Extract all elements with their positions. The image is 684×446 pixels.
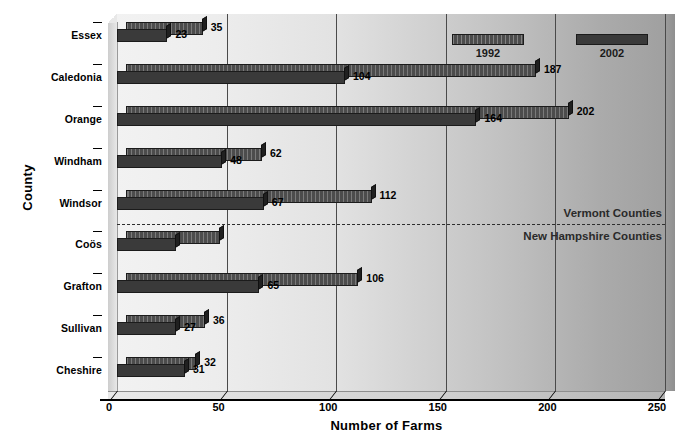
y-axis-tick [93, 315, 102, 316]
bar-value-cheshire-1992: 32 [204, 356, 216, 368]
bar-body [117, 238, 176, 251]
region-label-vermont: Vermont Counties [564, 207, 662, 219]
bar-value-grafton-2002: 65 [267, 279, 279, 291]
bar-body [117, 29, 167, 42]
y-axis-tick [93, 64, 102, 65]
y-axis-tick [93, 22, 102, 23]
bar-value-caledonia-2002: 104 [353, 70, 371, 82]
legend-swatch-2002 [576, 34, 648, 45]
bar-value-sullivan-1992: 36 [213, 314, 225, 326]
bar-grafton-2002 [117, 280, 259, 293]
bar-value-windham-1992: 62 [270, 147, 282, 159]
legend-label-1992: 1992 [452, 47, 524, 59]
plot-top-chamfer [108, 14, 117, 23]
y-axis-label-cheshire: Cheshire [7, 364, 102, 376]
bar-windham-2002 [117, 155, 222, 168]
x-tick-label-250: 250 [648, 401, 666, 413]
bar-end-cap [371, 183, 376, 199]
bar-end-cap [263, 190, 268, 206]
legend-swatch-1992 [452, 34, 524, 45]
bar-body [117, 364, 185, 377]
y-axis-title: County [20, 143, 35, 233]
bar-value-windham-2002: 48 [230, 154, 242, 166]
y-axis-label-caledonia: Caledonia [7, 71, 102, 83]
y-axis-category-labels: EssexCaledoniaOrangeWindhamWindsorCoösGr… [0, 0, 102, 446]
x-axis-title: Number of Farms [108, 418, 665, 433]
y-axis-tick [93, 231, 102, 232]
plot-right-wall [665, 14, 675, 391]
bar-cos-2002 [117, 238, 176, 251]
x-tick-label-150: 150 [429, 401, 447, 413]
bar-body [117, 322, 176, 335]
x-tick-label-50: 50 [212, 401, 224, 413]
bar-sullivan-2002 [117, 322, 176, 335]
bar-body [117, 113, 476, 126]
gridline-250 [665, 14, 666, 391]
legend-label-2002: 2002 [576, 47, 648, 59]
bar-value-essex-2002: 23 [175, 28, 187, 40]
farms-bar-chart: 050100150200250 EssexCaledoniaOrangeWind… [0, 0, 684, 446]
x-tick-label-100: 100 [319, 401, 337, 413]
y-axis-label-cos: Coös [7, 238, 102, 250]
y-axis-label-essex: Essex [7, 29, 102, 41]
y-axis-tick [93, 190, 102, 191]
y-axis-label-orange: Orange [7, 113, 102, 125]
bar-windsor-2002 [117, 197, 264, 210]
y-axis-tick [93, 357, 102, 358]
bar-value-windsor-1992: 112 [380, 189, 397, 201]
bar-body [117, 197, 264, 210]
bar-essex-2002 [117, 29, 167, 42]
bar-value-cheshire-2002: 31 [193, 363, 205, 375]
bar-value-windsor-2002: 67 [272, 196, 284, 208]
bar-end-cap [568, 100, 573, 116]
x-tick-label-0: 0 [106, 401, 112, 413]
bar-end-cap [261, 142, 266, 158]
bar-cheshire-2002 [117, 364, 185, 377]
bar-caledonia-2002 [117, 71, 345, 84]
x-tick-label-200: 200 [538, 401, 556, 413]
bar-body [117, 71, 345, 84]
bar-body [117, 280, 259, 293]
bar-body [117, 155, 222, 168]
bar-value-grafton-1992: 106 [366, 272, 384, 284]
bar-value-essex-1992: 35 [211, 21, 223, 33]
bar-value-sullivan-2002: 27 [184, 321, 196, 333]
region-divider-line [117, 224, 665, 225]
x-axis-line [100, 399, 665, 401]
y-axis-tick [93, 273, 102, 274]
y-axis-tick [93, 106, 102, 107]
bar-value-orange-1992: 202 [577, 105, 595, 117]
bar-value-caledonia-1992: 187 [544, 63, 562, 75]
bar-value-orange-2002: 164 [484, 112, 502, 124]
bar-orange-2002 [117, 113, 476, 126]
y-axis-label-grafton: Grafton [7, 280, 102, 292]
y-axis-label-sullivan: Sullivan [7, 322, 102, 334]
y-axis-tick [93, 148, 102, 149]
region-label-new-hampshire: New Hampshire Counties [523, 230, 662, 242]
